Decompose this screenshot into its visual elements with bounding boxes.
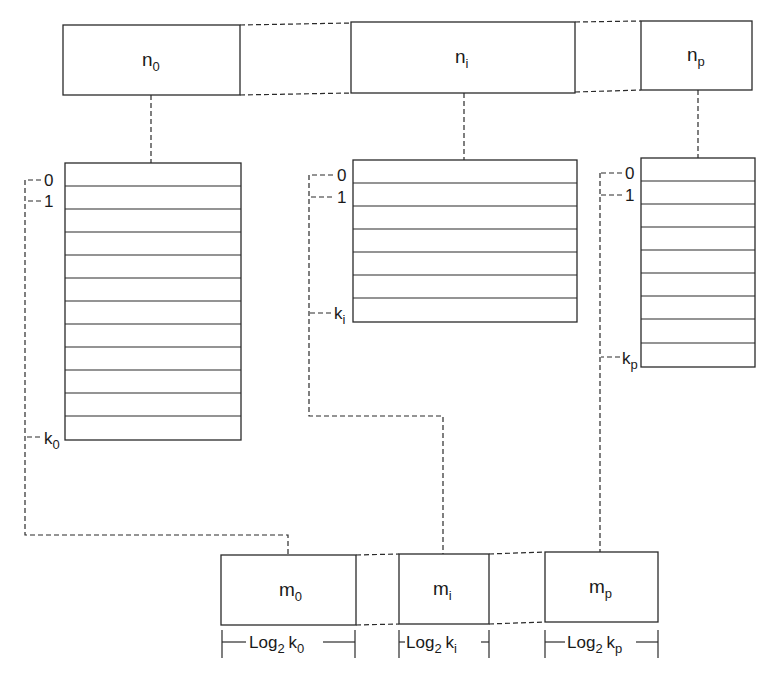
node-to-table-connectors [151, 90, 698, 163]
width-label-mp: Log2kp [567, 633, 622, 656]
width-marker-m0: Log2k0 [222, 630, 355, 658]
table-p-index-last: kp [622, 349, 638, 372]
table-0: 0 1 k0 [25, 163, 241, 452]
bottom-node-mp: mp [545, 552, 658, 622]
width-marker-mp: Log2kp [545, 630, 658, 658]
top-node-ni: ni [351, 22, 575, 93]
width-label-m0: Log2k0 [249, 633, 304, 656]
width-label-mi: Log2ki [406, 633, 457, 656]
table-0-index-last: k0 [44, 429, 60, 452]
table-i-index-first: 0 [337, 166, 346, 185]
table-i: 0 1 ki [309, 160, 577, 327]
bottom-node-m0: m0 [221, 555, 356, 625]
partitioned-index-diagram: n0 ni np [0, 0, 779, 681]
table-i-index-last: ki [334, 304, 346, 327]
top-node-n0: n0 [63, 25, 240, 95]
width-marker-mi: Log2ki [399, 630, 489, 658]
top-node-np: np [641, 21, 752, 90]
table-p: 0 1 kp [599, 158, 755, 372]
table-p-index-first: 0 [625, 164, 634, 183]
table-0-index-second: 1 [44, 192, 53, 211]
table-i-index-second: 1 [337, 188, 346, 207]
bottom-node-mi: mi [399, 554, 489, 624]
table-p-index-second: 1 [625, 186, 634, 205]
table-0-index-first: 0 [44, 171, 53, 190]
